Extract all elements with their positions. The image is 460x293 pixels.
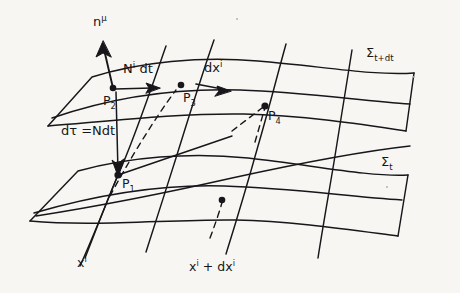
coordinate-line-x-i — [85, 175, 118, 258]
shift-vector-label: Ni dt — [123, 61, 153, 75]
dashed-p3-to-p4 — [232, 108, 262, 131]
surface-label-sigma-t-dt: Σt+dt — [366, 46, 394, 62]
point-marker-p1 — [114, 171, 121, 178]
point-marker-lower-right — [219, 197, 226, 204]
dashed-p1-to-p3 — [110, 90, 176, 196]
point-label-p2: P2 — [103, 95, 116, 110]
paper-speck — [386, 186, 388, 188]
lower-surface-right-edge — [398, 175, 408, 236]
point-label-p4: P4 — [268, 110, 281, 125]
point-marker-p3 — [178, 82, 185, 89]
point-label-p1: P1 — [122, 178, 135, 193]
surface-label-sigma-t: Σt — [381, 155, 393, 171]
dx-vector-label: dxi — [204, 60, 223, 74]
paper-speck — [236, 18, 238, 20]
lower-grid-curve-1 — [34, 186, 402, 213]
proper-time-segment — [116, 92, 118, 172]
dx-vector-head — [215, 86, 231, 96]
upper-surface-right-edge — [406, 73, 414, 131]
proper-time-label: dτ =Ndt — [61, 124, 115, 137]
normal-vector-label: nμ — [93, 14, 107, 28]
point-label-p3: P3 — [183, 92, 196, 107]
diagram-canvas — [0, 0, 460, 293]
paper-speck — [413, 76, 415, 78]
point-marker-p2 — [110, 85, 117, 92]
coordinate-label-x-i-plus-dx-i: xi + dxi — [189, 259, 235, 274]
spacetime-foliation-figure: nμ Ni dt dxi dτ =Ndt P2 P3 P4 P1 Σt+dt Σ… — [0, 0, 460, 293]
normal-vector-head — [96, 41, 111, 57]
worldline-far-right — [318, 50, 352, 258]
coordinate-label-x-i: xi — [77, 255, 87, 270]
dashed-lower-right — [210, 199, 223, 238]
shift-vector-shaft — [115, 88, 152, 89]
worldline-x-i — [80, 46, 166, 266]
